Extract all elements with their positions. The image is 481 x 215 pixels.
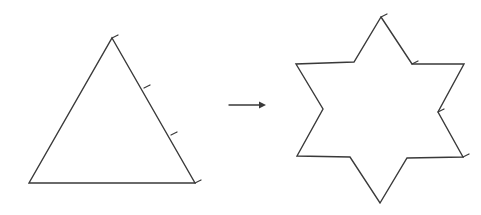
tick-mark [171,132,177,135]
star-figure [296,14,469,203]
tick-mark [112,35,118,38]
triangle-tick-marks [112,35,201,183]
arrow-right-icon [259,102,266,109]
six-pointed-star [296,17,464,203]
transform-arrow [229,102,266,109]
tick-mark [463,154,469,157]
tick-mark [195,180,201,183]
star-tick-marks [381,14,469,157]
tick-mark [381,14,387,17]
triangle-figure [29,35,201,183]
koch-diagram [0,0,481,215]
equilateral-triangle [29,38,195,183]
tick-mark [144,85,150,88]
